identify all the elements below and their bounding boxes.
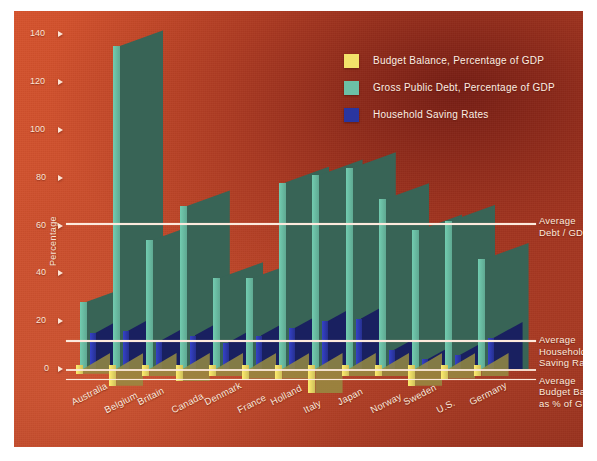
reference-note-line: Debt / GDP (539, 227, 583, 239)
reference-note-line: Average (539, 215, 583, 227)
y-tick-40: 40 (36, 267, 46, 277)
bar-budget-france (242, 365, 249, 379)
y-tick-arrow-60 (58, 223, 63, 229)
bar-budget-denmark (209, 365, 216, 376)
legend-label-budget-balance: Budget Balance, Percentage of GDP (373, 55, 544, 66)
x-tick-label-france: France (236, 392, 268, 416)
y-tick-arrow-0 (58, 366, 63, 372)
x-tick-label-britain: Britain (136, 385, 166, 408)
y-tick-60: 60 (36, 220, 46, 230)
bar-debt-denmark (213, 278, 220, 369)
legend-label-saving-rates: Household Saving Rates (373, 109, 489, 120)
bar-saving-italy (322, 321, 328, 369)
y-tick-120: 120 (30, 76, 45, 86)
legend-item-budget-balance: Budget Balance, Percentage of GDP (344, 47, 555, 74)
x-tick-label-canada: Canada (169, 390, 205, 415)
legend-swatch-public-debt (344, 81, 359, 95)
bar-debt-japan (346, 168, 353, 369)
chart-plate: Percentage 140120100806040200AverageDebt… (14, 11, 583, 447)
reference-note-line: Saving Rate (539, 357, 583, 369)
x-tick-label-germany: Germany (468, 379, 509, 407)
x-tick-label-belgium: Belgium (103, 389, 140, 415)
y-tick-arrow-40 (58, 270, 63, 276)
x-tick-label-australia: Australia (70, 380, 110, 407)
y-tick-80: 80 (36, 172, 46, 182)
reference-note-0: AverageDebt / GDP (539, 215, 583, 238)
bar-saving-japan (356, 319, 362, 369)
reference-note-1: AverageHouseholdSaving Rate (539, 334, 583, 369)
bar-debt-australia (80, 302, 87, 369)
chart-page: Percentage 140120100806040200AverageDebt… (0, 0, 597, 461)
bar-budget-holland (275, 365, 282, 379)
legend-label-public-debt: Gross Public Debt, Percentage of GDP (373, 82, 555, 93)
bar-budget-germany (474, 365, 481, 376)
y-tick-0: 0 (44, 363, 49, 373)
y-tick-20: 20 (36, 315, 46, 325)
legend-swatch-saving-rates (344, 108, 359, 122)
bar-debt-belgium (113, 46, 120, 369)
bar-debt-france (246, 278, 253, 369)
y-tick-arrow-100 (58, 127, 63, 133)
y-tick-arrow-120 (58, 79, 63, 85)
reference-note-2: AverageBudget Balanceas % of GDP (539, 375, 583, 410)
y-tick-100: 100 (30, 124, 45, 134)
reference-note-line: Average (539, 375, 583, 387)
bar-budget-japan (342, 365, 349, 376)
bar-debt-us (445, 221, 452, 369)
bar-debt-germany (478, 259, 485, 369)
bar-debt-sweden (412, 230, 419, 369)
bar-debt-canada (180, 206, 187, 369)
reference-note-line: as % of GDP (539, 398, 583, 410)
reference-line-0 (66, 223, 536, 225)
bar-budget-norway (375, 365, 382, 376)
legend-item-saving-rates: Household Saving Rates (344, 101, 555, 128)
legend-swatch-budget-balance (344, 54, 359, 68)
x-tick-label-italy: Italy (302, 397, 323, 415)
reference-note-line: Average (539, 334, 583, 346)
x-tick-label-us: U.S. (435, 397, 457, 416)
reference-note-line: Household (539, 346, 583, 358)
x-tick-label-denmark: Denmark (202, 379, 243, 407)
reference-note-line: Budget Balance (539, 386, 583, 398)
legend-item-public-debt: Gross Public Debt, Percentage of GDP (344, 74, 555, 101)
y-tick-arrow-20 (58, 318, 63, 324)
x-tick-label-norway: Norway (368, 390, 403, 415)
reference-line-1 (66, 340, 536, 342)
reference-line-2 (66, 379, 536, 381)
x-tick-label-holland: Holland (269, 382, 304, 407)
bar-debt-britain (146, 240, 153, 369)
y-tick-140: 140 (30, 28, 45, 38)
y-tick-arrow-140 (58, 31, 63, 37)
bar-budget-us (441, 365, 448, 379)
zero-baseline (66, 369, 536, 371)
bar-budget-britain (142, 365, 149, 376)
y-tick-arrow-80 (58, 175, 63, 181)
chart-legend: Budget Balance, Percentage of GDP Gross … (344, 47, 555, 128)
